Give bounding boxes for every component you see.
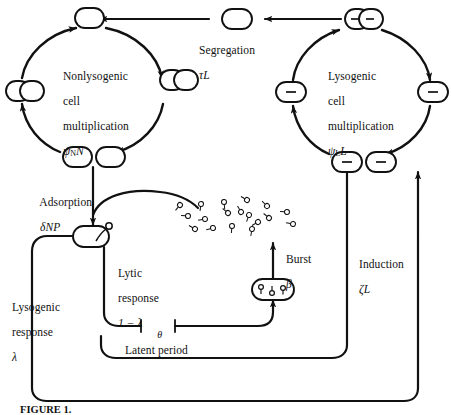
label-nonlysogenic-cycle: Nonlysogenic cell multiplication ψNN: [57, 57, 129, 161]
induction-name: Induction: [359, 258, 404, 270]
phage-to-adsorption-arc: [93, 191, 198, 215]
lytic-line2: response: [118, 292, 159, 304]
node-lysogenic-left: [276, 82, 306, 102]
free-phage-cloud: [174, 194, 296, 236]
label-lysogenic-response: Lysogenic response λ: [6, 288, 60, 364]
figure-caption: FIGURE 1.: [20, 404, 71, 415]
burst-rate: β: [286, 278, 292, 290]
label-burst: Burst β: [280, 240, 311, 290]
nonlysogenic-line3: multiplication: [63, 120, 129, 132]
segregation-rate: τL: [199, 69, 210, 81]
nonlysogenic-line2: cell: [63, 95, 80, 107]
lytic-line1: Lytic: [118, 267, 142, 279]
adsorption-rate: δNP: [40, 221, 60, 233]
adsorption-name: Adsorption: [39, 196, 92, 208]
label-adsorption: Adsorption δNP: [34, 183, 92, 233]
nonlysogenic-line1: Nonlysogenic: [63, 70, 128, 82]
segregation-name: Segregation: [199, 44, 255, 56]
nonlysogenic-rate-var: N: [76, 145, 84, 157]
node-lysogenic-top: [345, 9, 383, 29]
lysogenic-rate-var: L: [340, 145, 347, 157]
induction-rate: ζL: [359, 283, 370, 295]
label-induction: Induction ζL: [353, 245, 404, 295]
lysogenic-line2: cell: [328, 95, 345, 107]
lysogenic-line3: multiplication: [328, 120, 394, 132]
burst-name: Burst: [286, 253, 311, 265]
latent-name: Latent period: [125, 344, 188, 356]
lysogenic-resp-line2: response: [12, 326, 53, 338]
node-nonlysogenic-left: [6, 81, 44, 101]
lytic-rate: 1 − λ: [118, 317, 143, 329]
label-lysogenic-cycle: Lysogenic cell multiplication ψLL: [322, 57, 394, 161]
label-segregation: Segregation τL: [193, 31, 255, 81]
label-latent-period: Latent period: [119, 331, 188, 356]
lysogenic-resp-rate: λ: [12, 351, 17, 363]
node-segregation-cell: [222, 9, 252, 29]
node-lysogenic-right: [418, 82, 448, 102]
lysogenic-resp-line1: Lysogenic: [12, 301, 60, 313]
lysogenic-line1: Lysogenic: [328, 70, 376, 82]
node-nonlysogenic-top: [75, 8, 104, 28]
